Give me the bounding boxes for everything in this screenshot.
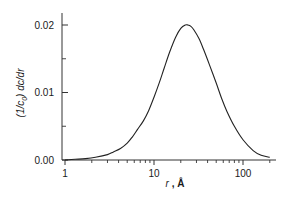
y-axis: 0.000.010.02 xyxy=(35,13,68,166)
x-label-var: r xyxy=(166,178,170,189)
y-tick-label: 0.00 xyxy=(35,155,55,166)
x-tick-label: 10 xyxy=(148,168,160,179)
y-tick-label: 0.01 xyxy=(35,87,55,98)
x-axis-title: r , Å xyxy=(166,177,185,189)
y-label-main: (1/c xyxy=(15,101,26,118)
chart: 110100 0.000.010.02 (1/c0) dc/dr r , Å xyxy=(0,0,286,206)
y-axis-title: (1/c0) dc/dr xyxy=(15,68,28,118)
svg-text:r , Å: r , Å xyxy=(166,177,185,189)
x-tick-label: 1 xyxy=(62,168,68,179)
svg-text:(1/c0) dc/dr: (1/c0) dc/dr xyxy=(15,68,28,118)
x-tick-label: 100 xyxy=(235,168,252,179)
y-label-tail: ) dc/dr xyxy=(15,68,26,98)
x-axis: 110100 xyxy=(62,160,276,179)
data-curve xyxy=(65,25,270,160)
x-label-unit: , Å xyxy=(172,177,185,189)
y-tick-label: 0.02 xyxy=(35,20,55,31)
